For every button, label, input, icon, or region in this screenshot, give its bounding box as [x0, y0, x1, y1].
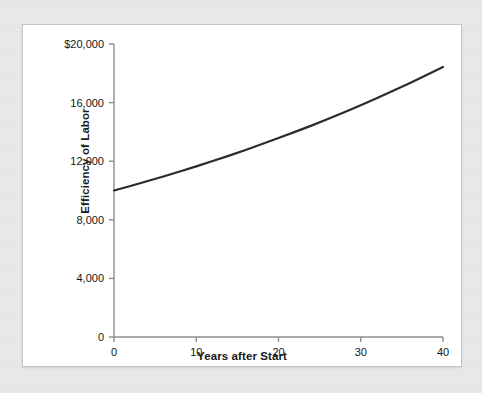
tick-labels-layer: 04,0008,00012,00016,000$20,000010203040	[64, 38, 449, 358]
tick-marks-layer	[109, 44, 443, 342]
y-tick-label: 0	[98, 331, 104, 343]
y-tick-label: 4,000	[76, 272, 104, 284]
x-axis-title: Years after Start	[23, 350, 461, 362]
data-series-layer	[114, 67, 443, 191]
y-tick-label: $20,000	[64, 38, 104, 50]
efficiency-of-labor-curve	[114, 67, 443, 191]
y-axis-title: Efficiency of Labor	[79, 81, 91, 241]
chart-panel: 04,0008,00012,00016,000$20,000010203040 …	[22, 24, 462, 367]
axes-layer	[114, 44, 443, 337]
figure-root: 04,0008,00012,00016,000$20,000010203040 …	[0, 0, 482, 393]
